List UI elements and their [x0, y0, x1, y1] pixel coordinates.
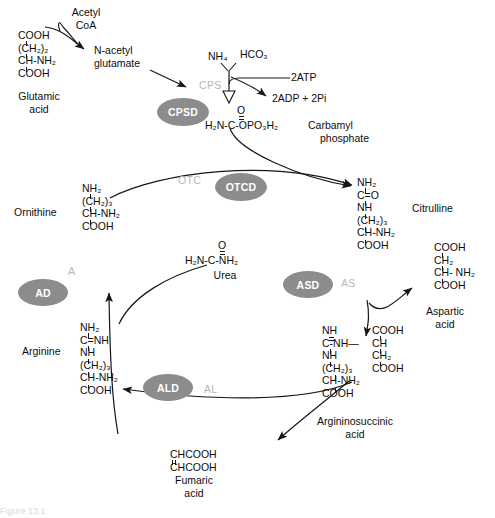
structure-argininosuccinic-left: NH C-NH— NH (CH₂)₃ CH-NH₂ COOH [322, 324, 360, 400]
argininosuccinic-left-bond-2 [330, 349, 331, 354]
label-citrulline: Citrulline [412, 202, 453, 215]
argininosuccinic-left-bond-4 [335, 375, 336, 380]
arginine-bond-1 [88, 333, 89, 338]
enzyme-pill-ald[interactable]: ALD [143, 374, 193, 401]
enzyme-label-al[interactable]: AL [204, 383, 217, 395]
label-acetyl-coa: Acetyl CoA [56, 6, 116, 31]
argininosuccinic-left-row-3: NH [322, 349, 360, 362]
citrulline-bond-3 [365, 214, 366, 219]
aspartic-acid-row-4: COOH [434, 279, 475, 292]
structure-glutamic-acid: COOH (CH₂)₂ CH-NH₂ COOH [18, 29, 56, 79]
argininosuccinic-right-row-2: CH [372, 337, 404, 350]
aspartic-acid-name-line2: acid [413, 318, 477, 331]
label-n-acetyl-glutamate: N-acetyl glutamate [94, 44, 140, 69]
reaction-arrow-layer [0, 0, 495, 518]
arginine-row-3: NH [80, 346, 118, 359]
citrulline-row-4: (CH₂)₃ [357, 214, 395, 227]
glutamic-acid-row-4: COOH [18, 67, 56, 80]
label-argininosuccinic-acid: Argininosuccinic acid [300, 415, 410, 440]
enzyme-label-otc[interactable]: OTC [178, 174, 201, 186]
arginine-bond-5 [88, 385, 89, 390]
citrulline-bond-2 [365, 201, 366, 206]
aspartic-bond-2 [442, 266, 443, 271]
glutamic-acid-row-2: (CH₂)₂ [18, 42, 56, 55]
enzyme-pill-cpsd[interactable]: CPSD [157, 98, 209, 126]
argininosuccinic-left-row-4: (CH₂)₃ [322, 362, 360, 375]
label-urea: Urea [195, 269, 255, 282]
ornithine-bond-2 [90, 207, 91, 212]
citrulline-bond-5 [365, 240, 366, 245]
glutamic-acid-row-3: CH-NH₂ [18, 54, 56, 67]
fumaric-acid-double-bond [172, 460, 176, 465]
arrow-nacetylglutamate-to-cps [150, 70, 186, 87]
ornithine-row-3: CH-NH₂ [82, 207, 120, 220]
glutamic-bond-2 [26, 54, 27, 59]
citrulline-bond-1 [365, 188, 366, 193]
structure-urea: H₂N-C-NH₂ [185, 254, 238, 267]
carbamyl-phosphate-name-line1: Carbamyl [308, 119, 369, 132]
structure-carbamyl-phosphate: H₂N-C-OPO₃H₂ [205, 119, 278, 132]
argininosuccinic-right-row-1: COOH [372, 324, 404, 337]
glutamic-acid-name-line1: Glutamic [7, 90, 71, 103]
enzyme-pill-ad[interactable]: AD [18, 279, 68, 306]
ornithine-row-2: (CH₂)₃ [82, 195, 120, 208]
ornithine-row-1: NH₂ [82, 182, 120, 195]
n-acetyl-glutamate-line1: N-acetyl [94, 44, 140, 57]
arginine-bond-2 [88, 346, 89, 351]
argininosuccinic-right-row-3: CH₂ [372, 349, 404, 362]
aspartic-bond-3 [442, 279, 443, 284]
glutamic-bond-3 [26, 67, 27, 72]
hco3-converge-line [229, 63, 236, 71]
enzyme-pill-otcd[interactable]: OTCD [215, 173, 267, 201]
citrulline-row-6: COOH [357, 239, 395, 252]
glutamic-acid-name-line2: acid [7, 103, 71, 116]
fumaric-acid-row-2: CHCOOH [170, 461, 217, 474]
aspartic-acid-name-line1: Aspartic [413, 305, 477, 318]
arrow-2adp-2pi-out [231, 77, 266, 96]
arginine-row-4: (CH₂)₃ [80, 359, 118, 372]
structure-ornithine: NH₂ (CH₂)₃ CH-NH₂ COOH [82, 182, 120, 232]
label-glutamic-acid: Glutamic acid [7, 90, 71, 115]
label-ammonium: NH₄ [208, 50, 227, 63]
label-arginine: Arginine [22, 345, 61, 358]
enzyme-label-a[interactable]: A [68, 265, 75, 277]
label-carbamyl-phosphate: Carbamyl phosphate [308, 119, 369, 144]
enzyme-label-as[interactable]: AS [341, 277, 356, 289]
enzyme-pill-asd[interactable]: ASD [283, 271, 333, 298]
figure-caption: Figure 13.1 [0, 506, 495, 518]
argininosuccinic-left-row-5: CH-NH₂ [322, 374, 360, 387]
argininosuccinic-right-bond-3 [380, 362, 381, 367]
citrulline-bond-4 [365, 227, 366, 232]
urea-cycle-diagram: Acetyl CoA COOH (CH₂)₂ CH-NH₂ COOH Gluta… [0, 0, 495, 518]
label-2adp-2pi: 2ADP + 2Pi [272, 92, 326, 105]
glutamic-acid-row-1: COOH [18, 29, 56, 42]
argininosuccinic-left-row-6: COOH [322, 387, 360, 400]
acetyl-coa-line2: CoA [56, 19, 116, 32]
enzyme-label-cps[interactable]: CPS [199, 79, 222, 91]
argininosuccinic-right-row-4: COOH [372, 362, 404, 375]
acetyl-coa-line1: Acetyl [56, 6, 116, 19]
arginine-bond-4 [88, 372, 89, 377]
structure-fumaric-acid: CHCOOH CHCOOH [170, 448, 217, 473]
argininosuccinic-right-bond-1 [380, 336, 381, 341]
cps-open-arrowhead [223, 91, 235, 103]
arginine-row-6: COOH [80, 384, 118, 397]
citrulline-row-3: NH [357, 201, 395, 214]
carbamyl-phosphate-name-line2: phosphate [308, 132, 369, 145]
arrow-aspartate-in [369, 288, 412, 309]
structure-arginine: NH₂ C=NH NH (CH₂)₃ CH-NH₂ COOH [80, 321, 118, 397]
structure-argininosuccinic-right: COOH CH CH₂ COOH [372, 324, 404, 374]
label-2atp: 2ATP [291, 71, 316, 84]
fumaric-acid-name-line1: Fumaric [160, 474, 228, 487]
arginine-row-5: CH-NH₂ [80, 371, 118, 384]
nh4-converge-line [221, 63, 228, 71]
argininosuccinic-name-line1: Argininosuccinic [300, 415, 410, 428]
ornithine-bond-1 [90, 194, 91, 199]
argininosuccinic-left-bond-3 [330, 362, 331, 367]
citrulline-row-5: CH-NH₂ [357, 226, 395, 239]
arginine-row-1: NH₂ [80, 321, 118, 334]
label-fumaric-acid: Fumaric acid [160, 474, 228, 499]
aspartic-acid-row-3: CH- NH₂ [434, 266, 475, 279]
fumaric-acid-name-line2: acid [160, 487, 228, 500]
carbamyl-phosphate-oxygen: O [237, 104, 245, 117]
